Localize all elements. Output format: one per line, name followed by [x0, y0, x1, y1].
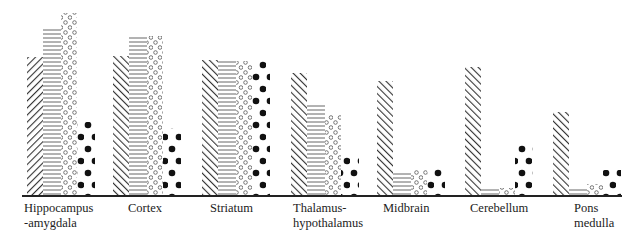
bar-solid-dots — [427, 168, 445, 196]
bar-diagonal — [113, 56, 129, 196]
bar-diagonal — [27, 57, 43, 196]
bar-solid-dots — [603, 170, 621, 196]
category-label-line: medulla — [574, 216, 614, 231]
bar-group — [113, 36, 181, 196]
bar-horizontal — [218, 60, 236, 196]
bar-diagonal — [553, 112, 569, 196]
bar-horizontal — [129, 36, 147, 196]
category-label-line: -amygdala — [24, 216, 93, 231]
category-label: Cortex — [128, 201, 162, 216]
category-label-line: hypothalamus — [293, 216, 363, 231]
bar-group — [377, 81, 445, 196]
bar-diagonal — [291, 73, 307, 196]
category-label-line: Cerebellum — [470, 201, 528, 216]
bar-open-circles — [411, 170, 427, 196]
bar-solid-dots — [77, 122, 95, 196]
category-label-line: Pons — [574, 201, 614, 216]
bar-solid-dots — [515, 142, 533, 196]
bar-horizontal — [393, 172, 411, 196]
category-label: Midbrain — [383, 201, 430, 216]
bar-diagonal — [465, 67, 481, 196]
category-label-line: Hippocampus — [24, 201, 93, 216]
bar-solid-dots — [341, 155, 359, 196]
bar-horizontal — [481, 188, 499, 196]
bar-solid-dots — [163, 128, 181, 196]
bar-diagonal — [202, 60, 218, 196]
bar-solid-dots — [252, 61, 270, 196]
category-label: Hippocampus-amygdala — [24, 201, 93, 231]
category-label: Ponsmedulla — [574, 201, 614, 231]
category-label-line: Midbrain — [383, 201, 430, 216]
bar-open-circles — [587, 184, 603, 196]
category-label-line: Thalamus- — [293, 201, 363, 216]
bar-group — [553, 112, 621, 196]
category-label: Cerebellum — [470, 201, 528, 216]
bar-diagonal — [377, 81, 393, 196]
category-label-line: Striatum — [210, 201, 253, 216]
bar-open-circles — [325, 115, 341, 196]
bar-horizontal — [43, 27, 61, 196]
bar-open-circles — [499, 188, 515, 196]
bar-horizontal — [569, 188, 587, 196]
bar-group — [291, 73, 359, 196]
bar-open-circles — [147, 36, 163, 196]
bar-horizontal — [307, 103, 325, 196]
bar-group — [202, 60, 270, 196]
bar-open-circles — [236, 61, 252, 196]
category-label-line: Cortex — [128, 201, 162, 216]
category-label: Thalamus-hypothalamus — [293, 201, 363, 231]
bar-open-circles — [61, 13, 77, 196]
category-label: Striatum — [210, 201, 253, 216]
bar-group — [465, 67, 533, 196]
bar-group — [27, 13, 95, 196]
bars-layer — [27, 13, 621, 196]
